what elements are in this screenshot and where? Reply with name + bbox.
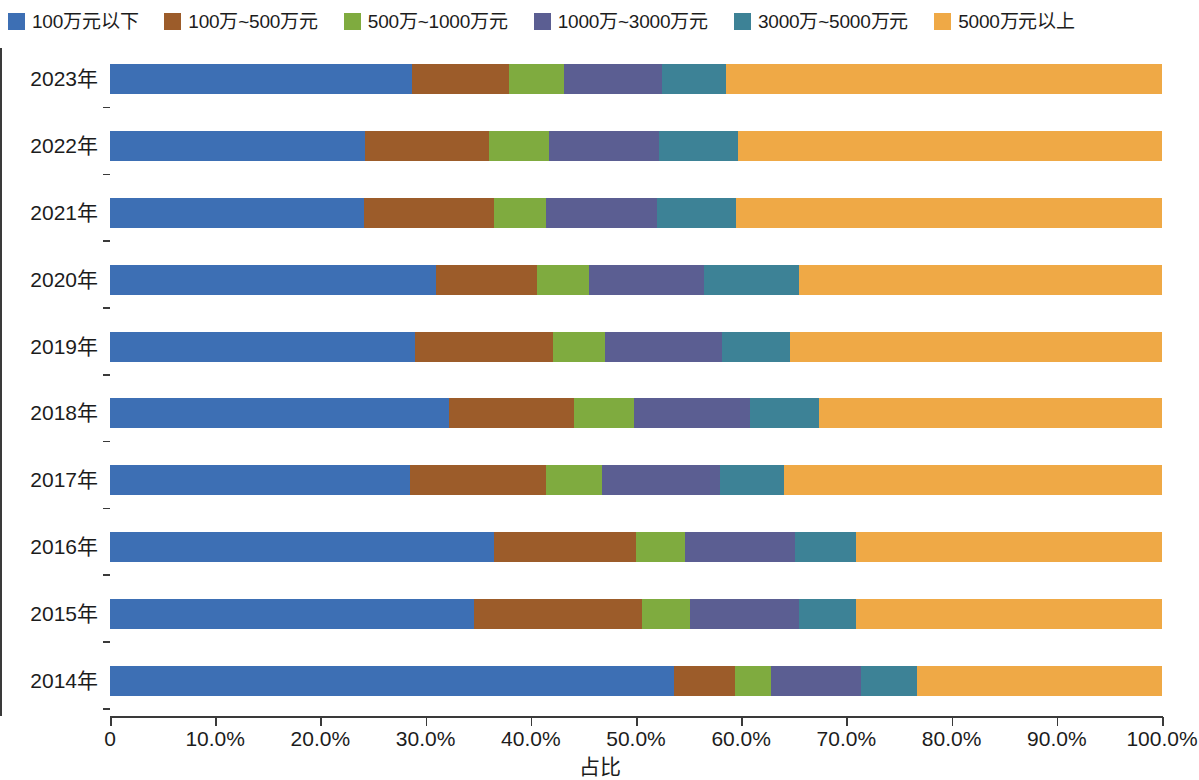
- chart-legend: 100万元以下100万~500万元500万~1000万元1000万~3000万元…: [8, 6, 1193, 36]
- bar-segment[interactable]: [674, 666, 735, 696]
- bar-segment[interactable]: [636, 532, 685, 562]
- bar-segment[interactable]: [546, 465, 603, 495]
- legend-label: 3000万~5000万元: [758, 12, 908, 31]
- x-axis-tick: [636, 717, 638, 726]
- x-axis-tick: [846, 717, 848, 726]
- bar-segment[interactable]: [659, 131, 738, 161]
- bar-segment[interactable]: [549, 131, 659, 161]
- bar-segment[interactable]: [537, 265, 589, 295]
- bar-segment[interactable]: [657, 198, 736, 228]
- bar-segment[interactable]: [110, 332, 415, 362]
- x-axis-tick-label: 40.0%: [501, 728, 561, 750]
- bar-segment[interactable]: [110, 265, 436, 295]
- bar-segment[interactable]: [474, 599, 642, 629]
- bar-segment[interactable]: [110, 131, 365, 161]
- legend-item[interactable]: 100万~500万元: [164, 12, 318, 31]
- bar-segment[interactable]: [790, 332, 1162, 362]
- bar-segment[interactable]: [795, 532, 856, 562]
- y-axis-tick: [103, 708, 110, 710]
- bar-segment[interactable]: [722, 332, 789, 362]
- bar-segment[interactable]: [856, 599, 1162, 629]
- bar-segment[interactable]: [489, 131, 549, 161]
- bar-segment[interactable]: [564, 64, 662, 94]
- x-axis-tick-label: 0: [104, 728, 116, 750]
- bar-segment[interactable]: [574, 398, 634, 428]
- x-axis-tick: [531, 717, 533, 726]
- x-axis-tick-labels: 010.0%20.0%30.0%40.0%50.0%60.0%70.0%80.0…: [0, 728, 1199, 756]
- bar-segment[interactable]: [856, 532, 1162, 562]
- x-axis-tick: [952, 717, 954, 726]
- bar-segment[interactable]: [412, 64, 509, 94]
- y-axis-label: 2018年: [0, 402, 98, 424]
- bar-segment[interactable]: [494, 532, 636, 562]
- bar-segment[interactable]: [704, 265, 799, 295]
- bar-segment[interactable]: [110, 666, 674, 696]
- bar-segment[interactable]: [110, 599, 474, 629]
- y-axis-label: 2019年: [0, 336, 98, 358]
- bar-segment[interactable]: [410, 465, 546, 495]
- bar-segment[interactable]: [602, 465, 720, 495]
- y-axis-label: 2014年: [0, 670, 98, 692]
- bar-segment[interactable]: [735, 666, 771, 696]
- bar-segment[interactable]: [110, 532, 494, 562]
- bar-segment[interactable]: [819, 398, 1162, 428]
- bar-segment[interactable]: [436, 265, 537, 295]
- y-axis-label: 2017年: [0, 469, 98, 491]
- bar-row: [110, 198, 1162, 228]
- bar-segment[interactable]: [110, 465, 410, 495]
- bar-segment[interactable]: [546, 198, 658, 228]
- legend-item[interactable]: 1000万~3000万元: [534, 12, 708, 31]
- bar-segment[interactable]: [449, 398, 574, 428]
- y-axis-tick: [103, 307, 110, 309]
- bar-segment[interactable]: [589, 265, 705, 295]
- bar-segment[interactable]: [861, 666, 917, 696]
- bar-segment[interactable]: [364, 198, 494, 228]
- bar-segment[interactable]: [750, 398, 819, 428]
- y-axis-tick: [103, 107, 110, 109]
- bar-segment[interactable]: [738, 131, 1162, 161]
- bar-segment[interactable]: [509, 64, 565, 94]
- bar-segment[interactable]: [690, 599, 799, 629]
- bar-segment[interactable]: [662, 64, 726, 94]
- bar-segment[interactable]: [365, 131, 489, 161]
- bar-segment[interactable]: [799, 599, 856, 629]
- bar-segment[interactable]: [553, 332, 606, 362]
- x-axis-tick: [320, 717, 322, 726]
- legend-swatch-icon: [734, 13, 751, 30]
- bar-segment[interactable]: [634, 398, 750, 428]
- bar-segment[interactable]: [605, 332, 722, 362]
- bar-segment[interactable]: [917, 666, 1162, 696]
- y-axis-label: 2016年: [0, 536, 98, 558]
- y-axis-tick: [103, 508, 110, 510]
- legend-swatch-icon: [8, 13, 25, 30]
- legend-item[interactable]: 100万元以下: [8, 12, 138, 31]
- bar-segment[interactable]: [110, 198, 364, 228]
- legend-item[interactable]: 500万~1000万元: [344, 12, 508, 31]
- bar-segment[interactable]: [784, 465, 1162, 495]
- y-axis-label: 2020年: [0, 269, 98, 291]
- bar-segment[interactable]: [494, 198, 546, 228]
- bar-segment[interactable]: [685, 532, 794, 562]
- legend-swatch-icon: [344, 13, 361, 30]
- y-axis-label: 2015年: [0, 603, 98, 625]
- y-axis-tick: [103, 240, 110, 242]
- bar-row: [110, 332, 1162, 362]
- legend-item[interactable]: 3000万~5000万元: [734, 12, 908, 31]
- bar-segment[interactable]: [799, 265, 1162, 295]
- bar-segment[interactable]: [726, 64, 1162, 94]
- y-axis-labels: 2023年2022年2021年2020年2019年2018年2017年2016年…: [0, 48, 104, 716]
- bar-segment[interactable]: [771, 666, 861, 696]
- bar-row: [110, 532, 1162, 562]
- x-axis-ticks: [110, 717, 1163, 727]
- x-axis-tick-label: 60.0%: [711, 728, 771, 750]
- legend-swatch-icon: [934, 13, 951, 30]
- bar-segment[interactable]: [720, 465, 784, 495]
- bar-row: [110, 131, 1162, 161]
- bar-segment[interactable]: [110, 398, 449, 428]
- bar-segment[interactable]: [736, 198, 1162, 228]
- legend-item[interactable]: 5000万元以上: [934, 12, 1075, 31]
- bar-segment[interactable]: [415, 332, 553, 362]
- bar-segment[interactable]: [642, 599, 689, 629]
- y-axis-tick: [103, 641, 110, 643]
- bar-segment[interactable]: [110, 64, 412, 94]
